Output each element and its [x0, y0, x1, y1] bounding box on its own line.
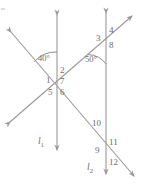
- line-label-l1-sub: 1: [41, 141, 44, 148]
- angle-number-2: 2: [60, 66, 65, 75]
- angle-label-50: 50°: [85, 55, 97, 64]
- line-label-l2-sub: 2: [90, 167, 93, 174]
- angle-number-8: 8: [109, 41, 114, 50]
- angle-number-4: 4: [109, 26, 114, 35]
- angle-number-1: 1: [46, 76, 51, 85]
- angle-number-6: 6: [60, 88, 65, 97]
- angle-number-12: 12: [109, 158, 118, 167]
- transversal-falling: [11, 32, 134, 176]
- angle-number-10: 10: [92, 119, 101, 128]
- angle-number-9: 9: [95, 146, 100, 155]
- angle-label-40: 40°: [38, 54, 50, 63]
- geometry-figure: 40° 50° 1 2 7 5 6 3 4 8 10 9 11 12 l1 l2: [0, 0, 142, 184]
- geometry-canvas: [0, 0, 142, 184]
- line-label-l1: l1: [38, 137, 44, 148]
- angle-number-5: 5: [48, 88, 53, 97]
- angle-number-11: 11: [109, 138, 118, 147]
- line-label-l2: l2: [87, 163, 93, 174]
- angle-number-7: 7: [60, 77, 65, 86]
- angle-number-3: 3: [96, 34, 101, 43]
